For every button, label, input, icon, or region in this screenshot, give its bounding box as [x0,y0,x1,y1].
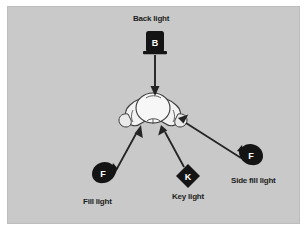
subject-head-top-view [119,93,187,127]
back-light-label: Back light [133,14,169,23]
key-light-ray [158,125,184,167]
side-fill-light-glyph: F [248,151,254,161]
side-fill-light-ray [178,115,241,158]
back-light-glyph: B [152,38,159,48]
fill-light-glyph: F [100,169,106,179]
back-light-fixture[interactable]: B [143,31,167,54]
key-light-glyph: K [185,172,192,182]
fill-light-label: Fill light [83,197,112,206]
side-fill-light-fixture[interactable]: F [237,144,263,165]
key-light-fixture[interactable]: K [176,164,200,188]
fill-light-ray [114,125,143,174]
fill-light-fixture[interactable]: F [92,162,118,183]
side-fill-light-label: Side fill light [231,176,276,185]
back-light-ray [151,55,160,96]
lighting-diagram-figure: B F K F Back light Fill light Key light … [0,0,307,230]
key-light-label: Key light [172,192,204,201]
diagram-scene: B F K F [0,0,307,230]
